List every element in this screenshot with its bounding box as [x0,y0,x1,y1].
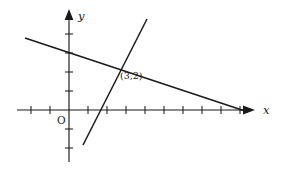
steep-increasing-line [83,19,147,145]
coordinate-graph-figure: y x O (3,2) [0,0,281,172]
x-axis-group [17,106,255,115]
intersection-point-label: (3,2) [120,70,143,81]
graph-canvas: y x O (3,2) [0,0,281,172]
origin-label: O [57,114,66,126]
x-axis-label: x [263,103,270,117]
y-axis-group [65,9,74,162]
plotted-lines-group [25,19,248,145]
x-axis-arrow-icon [243,106,255,115]
y-axis-label: y [77,9,85,23]
y-axis-arrow-icon [65,9,74,20]
